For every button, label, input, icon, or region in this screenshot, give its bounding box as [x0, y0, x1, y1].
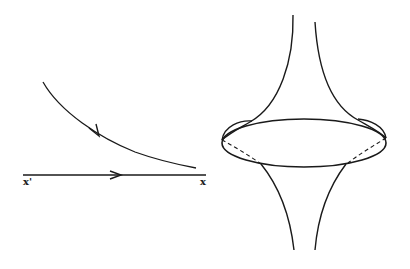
- approaching-curve: [43, 82, 196, 168]
- curve-arrow-icon: [89, 124, 99, 136]
- left-panel: [23, 82, 206, 179]
- diagram-canvas: x' x: [0, 0, 410, 269]
- label-x: x: [200, 176, 207, 187]
- lower-left-profile: [261, 164, 294, 250]
- equatorial-ellipse-front: [222, 119, 386, 167]
- hidden-right-dashed: [348, 138, 386, 163]
- right-panel: [222, 15, 386, 250]
- label-x-prime: x': [23, 176, 32, 187]
- upper-right-profile: [315, 22, 386, 138]
- lower-right-profile: [315, 164, 346, 250]
- upper-left-profile: [222, 15, 293, 140]
